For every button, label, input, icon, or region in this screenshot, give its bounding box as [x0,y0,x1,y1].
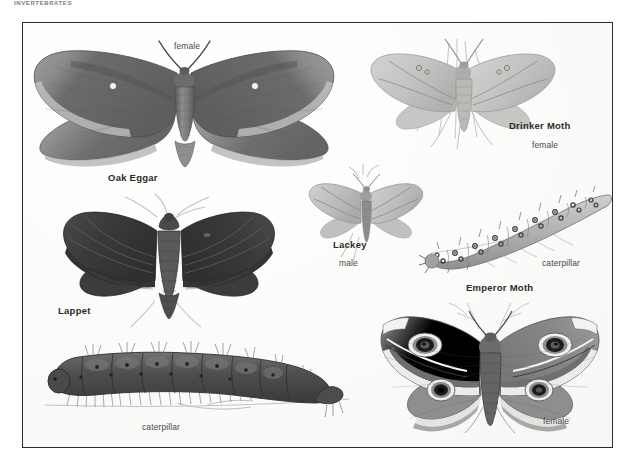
figure-lappet-caterpillar [37,333,357,423]
label-drinker-moth-sex: female [532,141,558,150]
label-oak-eggar-sex: female [174,42,200,51]
label-oak-eggar-name: Oak Eggar [108,173,158,183]
label-emperor-moth-sex: female [543,417,569,426]
label-lackey-sex: male [339,259,358,268]
label-lappet-caterpillar-stage: caterpillar [142,423,180,432]
running-head: INVERTEBRATES [14,0,72,7]
illustration-plate: female Oak Eggar [22,22,613,448]
label-emperor-caterpillar-stage: caterpillar [542,259,580,268]
label-drinker-moth-name: Drinker Moth [509,121,571,131]
figure-drinker-moth [363,35,563,155]
figure-emperor-moth-female [375,295,605,445]
figure-oak-eggar [25,31,345,191]
label-lappet-name: Lappet [58,306,91,316]
figure-emperor-caterpillar [415,183,613,273]
label-emperor-moth-name: Emperor Moth [466,283,533,293]
label-lackey-name: Lackey [333,240,367,250]
